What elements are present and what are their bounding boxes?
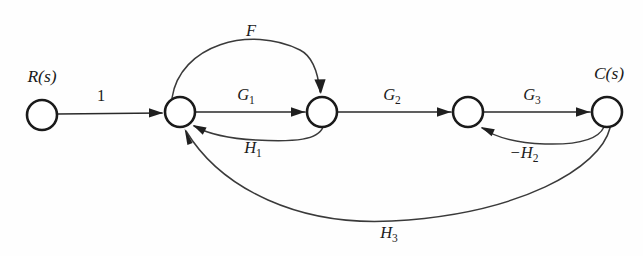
edge-g2 [337, 107, 451, 117]
edge-g1-arrowhead [291, 107, 305, 117]
edge-h1-arrowhead [193, 125, 207, 135]
label-edge-f: F [245, 21, 257, 40]
edge-g1 [195, 107, 305, 117]
label-edge-g1-subscript: 1 [249, 94, 255, 106]
edge-unity-gain [57, 108, 163, 117]
label-edge-g3-subscript: 3 [535, 94, 541, 106]
node-summing-2[interactable] [165, 97, 195, 127]
edge-unity-gain-arrowhead [149, 108, 163, 117]
label-edge-h2-subscript: 2 [533, 152, 539, 164]
label-output-cs: C(s) [594, 63, 624, 83]
label-edge-g3-base: G [523, 85, 535, 104]
label-edge-g2-base: G [383, 85, 395, 104]
signal-flow-graph-figure: R(s) C(s) 1 G1 G2 G3 F H1 −H2 H3 [0, 0, 643, 256]
edge-h1 [193, 125, 323, 141]
node-summing-4[interactable] [453, 97, 483, 127]
label-group-nodes: R(s) C(s) [26, 63, 624, 86]
node-output-cs[interactable] [592, 97, 622, 127]
label-edge-g1-base: G [237, 85, 249, 104]
edge-unity-gain-line [57, 113, 162, 114]
label-edge-g3: G3 [523, 85, 541, 106]
label-edge-g1: G1 [237, 85, 255, 106]
label-edge-h2: −H2 [510, 143, 539, 164]
edge-f-arrowhead [314, 79, 325, 94]
edge-h2-curve [482, 127, 604, 144]
label-edge-g2-subscript: 2 [395, 94, 401, 106]
label-edge-h3: H3 [379, 223, 398, 244]
label-input-rs: R(s) [26, 66, 56, 86]
edge-g3 [483, 107, 590, 117]
edge-h3-arrowhead [185, 129, 193, 145]
edge-g2-arrowhead [437, 107, 451, 117]
edge-h1-curve [194, 126, 323, 141]
edge-h2 [481, 127, 604, 144]
label-edge-g2: G2 [383, 85, 401, 106]
signal-flow-graph-canvas: R(s) C(s) 1 G1 G2 G3 F H1 −H2 H3 [0, 0, 643, 256]
label-edge-h3-subscript: 3 [392, 232, 398, 244]
edge-g3-arrowhead [576, 107, 590, 117]
label-edge-unity: 1 [97, 86, 105, 105]
label-edge-h1: H1 [243, 138, 262, 159]
label-edge-h2-base: −H [510, 143, 534, 162]
node-summing-3[interactable] [307, 97, 337, 127]
label-edge-h1-subscript: 1 [256, 147, 262, 159]
label-edge-h3-base: H [379, 223, 393, 242]
node-input-rs[interactable] [27, 100, 57, 130]
label-edge-h1-base: H [243, 138, 257, 157]
